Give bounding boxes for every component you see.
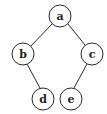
edges: [27, 24, 87, 88]
node-d: d: [32, 88, 54, 110]
node-e: e: [60, 88, 82, 110]
edge-c-e: [74, 64, 87, 88]
edge-b-d: [27, 64, 40, 88]
node-b-label: b: [19, 48, 27, 61]
node-e-label: e: [68, 93, 75, 106]
node-d-label: d: [39, 93, 47, 106]
edge-a-c: [68, 24, 85, 45]
node-a-label: a: [56, 10, 63, 23]
edge-a-b: [31, 24, 52, 46]
node-c-label: c: [89, 48, 96, 61]
node-c: c: [81, 43, 103, 65]
binary-tree-diagram: a b c d e: [0, 0, 107, 114]
node-b: b: [12, 43, 34, 65]
node-a: a: [49, 5, 71, 27]
